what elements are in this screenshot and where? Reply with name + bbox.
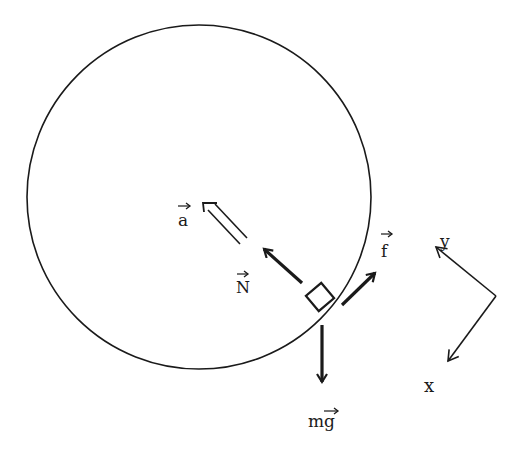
diagram-canvas: a N f mg	[0, 0, 520, 469]
svg-text:f: f	[381, 241, 389, 261]
gravity-label: mg	[308, 408, 338, 431]
circular-track	[27, 25, 371, 369]
acceleration-vector	[203, 203, 247, 244]
normal-force-vector	[264, 249, 302, 283]
svg-text:mg: mg	[308, 411, 335, 431]
x-axis	[448, 296, 496, 361]
acceleration-label: a	[178, 203, 190, 230]
svg-text:N: N	[236, 278, 250, 297]
normal-force-label: N	[236, 271, 250, 297]
svg-text:a: a	[178, 210, 188, 230]
x-axis-label: x	[424, 375, 434, 396]
free-body-diagram: a N f mg	[0, 0, 520, 469]
y-axis-label: y	[439, 231, 450, 251]
friction-force-vector	[342, 273, 375, 305]
friction-force-label: f	[381, 231, 392, 261]
y-axis	[436, 247, 496, 296]
coordinate-axes: y x	[424, 231, 496, 396]
block	[306, 283, 334, 311]
